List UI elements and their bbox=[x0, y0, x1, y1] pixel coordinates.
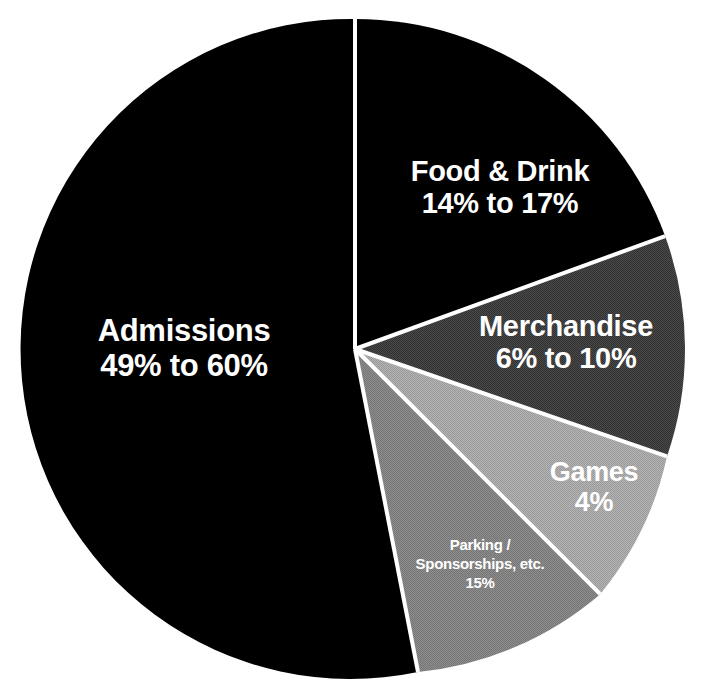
pie-label-merchandise-value: 6% to 10% bbox=[438, 342, 694, 374]
pie-label-food-drink-name: Food & Drink bbox=[376, 155, 624, 187]
pie-label-parking-name-line2: Sponsorships, etc. bbox=[382, 555, 578, 574]
pie-label-food-drink-value: 14% to 17% bbox=[376, 187, 624, 219]
pie-label-games-value: 4% bbox=[512, 487, 676, 517]
pie-label-parking-value: 15% bbox=[382, 574, 578, 593]
pie-label-parking: Parking / Sponsorships, etc. 15% bbox=[382, 536, 578, 592]
pie-label-games: Games 4% bbox=[512, 457, 676, 517]
pie-label-parking-name-line1: Parking / bbox=[382, 536, 578, 555]
pie-label-merchandise-name: Merchandise bbox=[438, 310, 694, 342]
pie-chart: Admissions 49% to 60% Food & Drink 14% t… bbox=[0, 0, 703, 687]
pie-label-admissions: Admissions 49% to 60% bbox=[52, 314, 316, 383]
pie-label-admissions-value: 49% to 60% bbox=[52, 349, 316, 384]
pie-label-games-name: Games bbox=[512, 457, 676, 487]
pie-label-merchandise: Merchandise 6% to 10% bbox=[438, 310, 694, 375]
pie-label-admissions-name: Admissions bbox=[52, 314, 316, 349]
pie-label-food-drink: Food & Drink 14% to 17% bbox=[376, 155, 624, 220]
